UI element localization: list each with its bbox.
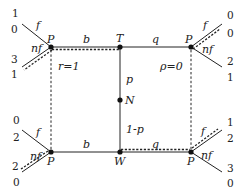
label-edge-b-bottom: b [83,138,90,151]
node-T [117,44,122,49]
label-action-f-top-left: f [35,19,42,32]
payoff-top-left-f-1: 1 [12,7,19,19]
label-action-nf-bottom-right: nf [201,149,214,162]
payoff-bottom-left-nf-2: 0 [13,176,20,188]
payoff-top-left-f-2: 0 [11,23,18,35]
label-node-N: N [124,94,135,107]
label-action-nf-top-right: nf [202,43,215,56]
label-node-T: T [116,32,125,45]
node-N [117,97,122,102]
label-action-nf-bottom-left: nf [30,150,43,163]
label-prob-p: p [126,73,133,86]
payoff-top-right-nf-1: 2 [227,55,234,67]
payoff-top-left-nf-1: 3 [11,53,18,65]
label-action-f-top-right: f [202,19,209,32]
payoff-top-right-nf-2: 1 [227,71,234,83]
payoff-bottom-left-f-2: 2 [13,131,20,143]
node-bottom-right [188,149,193,154]
label-node-top-right: P [184,33,193,46]
payoff-top-left-nf-2: 1 [11,68,18,80]
payoff-bottom-right-nf-1: 3 [227,162,234,174]
payoff-bottom-left-f-1: 0 [13,114,20,126]
game-tree-diagram: P T P N P W P b q b q p 1-p r=1 ρ=0 f nf… [0,0,247,194]
label-action-f-bottom-right: f [200,125,207,138]
label-prob-1-minus-p: 1-p [126,123,144,136]
label-edge-q-bottom: q [152,138,159,151]
label-node-W: W [114,155,127,168]
label-belief-left: r=1 [58,60,79,73]
label-node-bottom-left: P [46,155,55,168]
label-edge-b-top: b [83,33,90,46]
payoff-bottom-left-nf-1: 2 [12,160,19,172]
payoff-top-right-f-2: 0 [227,27,234,39]
payoff-bottom-right-f-1: 1 [227,116,234,128]
label-node-top-left: P [46,33,55,46]
payoff-top-right-f-1: 0 [227,9,234,21]
node-bottom-left [48,149,53,154]
label-belief-right: ρ=0 [159,60,183,73]
node-W [117,149,122,154]
label-action-f-bottom-left: f [35,126,42,139]
label-node-bottom-right: P [186,155,195,168]
payoff-bottom-right-f-2: 2 [227,132,234,144]
label-action-nf-top-left: nf [31,42,44,55]
payoff-bottom-right-nf-2: 0 [227,177,234,189]
label-edge-q-top: q [152,33,159,46]
